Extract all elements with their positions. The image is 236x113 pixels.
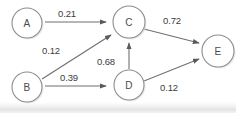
node-d-label: D — [125, 80, 132, 91]
edge-labels-group: 0.21 0.12 0.39 0.68 0.72 0.12 — [42, 8, 181, 93]
edge-label-b-to-c: 0.12 — [42, 45, 60, 56]
node-e[interactable]: E — [202, 35, 236, 69]
node-a-label: A — [24, 18, 31, 29]
graph-svg: A B C D — [0, 0, 236, 113]
edge-label-b-to-d: 0.39 — [60, 72, 78, 83]
graph-diagram: A B C D — [0, 0, 236, 113]
node-b[interactable]: B — [12, 72, 44, 104]
edge-c-to-e — [144, 29, 199, 43]
edge-label-d-to-c: 0.68 — [97, 56, 115, 67]
edge-label-c-to-e: 0.72 — [163, 15, 181, 26]
edge-label-a-to-c: 0.21 — [58, 8, 76, 19]
node-c-label: C — [125, 17, 132, 28]
node-c[interactable]: C — [113, 6, 147, 40]
edge-label-d-to-e: 0.12 — [160, 82, 178, 93]
node-a[interactable]: A — [12, 8, 44, 40]
edge-d-to-e — [144, 59, 199, 81]
node-b-label: B — [24, 82, 31, 93]
node-d[interactable]: D — [114, 70, 146, 102]
node-e-label: E — [215, 46, 222, 57]
